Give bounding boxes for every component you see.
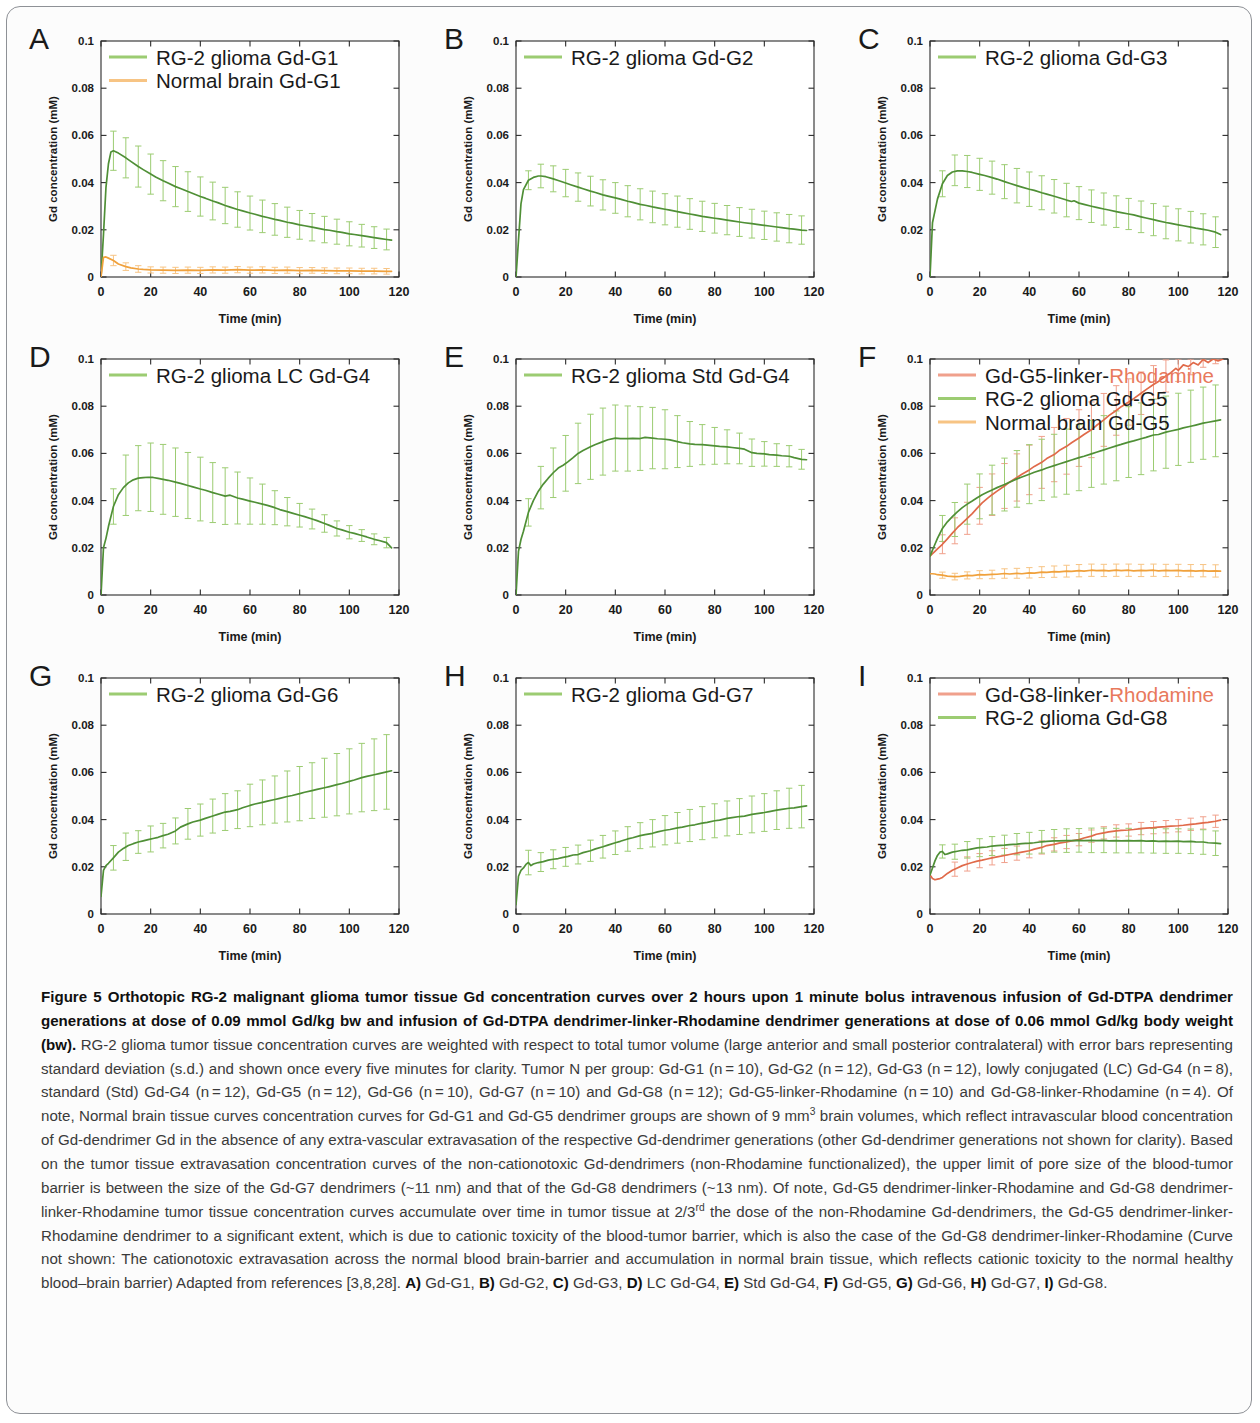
x-tick-label: 20	[144, 603, 158, 617]
panel-C: C02040608010012000.020.040.060.080.1Time…	[844, 15, 1259, 333]
x-tick-label: 120	[389, 285, 410, 299]
x-tick-label: 120	[803, 285, 824, 299]
legend-label: RG-2 glioma LC Gd-G4	[156, 364, 370, 387]
y-tick-label: 0.04	[486, 177, 509, 189]
x-tick-label: 100	[754, 603, 775, 617]
panel-letter-E: E	[444, 340, 464, 373]
x-tick-label: 120	[1218, 285, 1239, 299]
chart-panel-H: H02040608010012000.020.040.060.080.1Time…	[430, 652, 844, 970]
y-tick-label: 0.02	[901, 542, 923, 554]
y-tick-label: 0.04	[72, 495, 95, 507]
x-tick-label: 100	[754, 922, 775, 936]
x-tick-label: 40	[1023, 285, 1037, 299]
figure-caption-superscript-2: rd	[695, 1202, 704, 1213]
x-tick-label: 20	[558, 603, 572, 617]
x-tick-label: 0	[98, 285, 105, 299]
y-tick-label: 0.1	[907, 353, 924, 365]
x-axis-label: Time (min)	[633, 630, 696, 644]
x-tick-label: 120	[1218, 603, 1239, 617]
chart-panel-C: C02040608010012000.020.040.060.080.1Time…	[844, 15, 1258, 333]
x-tick-label: 40	[1023, 603, 1037, 617]
y-tick-label: 0.08	[486, 82, 509, 94]
y-axis-label: Gd concentration (mM)	[47, 414, 59, 540]
x-tick-label: 40	[1023, 922, 1037, 936]
plot-area	[516, 678, 814, 914]
y-axis-label: Gd concentration (mM)	[876, 414, 888, 540]
panel-key-text: Gd-G7,	[987, 1274, 1045, 1291]
y-tick-label: 0.1	[78, 672, 95, 684]
y-tick-label: 0.02	[72, 542, 94, 554]
x-tick-label: 20	[144, 285, 158, 299]
y-tick-label: 0.08	[486, 719, 509, 731]
y-tick-label: 0.04	[486, 813, 509, 825]
y-tick-label: 0.04	[901, 813, 924, 825]
panel-key-text: Gd-G8.	[1054, 1274, 1108, 1291]
legend-label: Normal brain Gd-G1	[156, 69, 341, 92]
panel-letter-D: D	[29, 340, 51, 373]
x-tick-label: 120	[803, 922, 824, 936]
x-tick-label: 120	[389, 922, 410, 936]
y-tick-label: 0.02	[486, 224, 508, 236]
panel-G: G02040608010012000.020.040.060.080.1Time…	[15, 652, 430, 970]
y-axis-label: Gd concentration (mM)	[47, 733, 59, 859]
x-tick-label: 60	[1072, 922, 1086, 936]
x-tick-label: 120	[803, 603, 824, 617]
chart-panel-D: D02040608010012000.020.040.060.080.1Time…	[15, 333, 429, 651]
panel-key-letter: G)	[896, 1274, 913, 1291]
x-tick-label: 60	[243, 922, 257, 936]
y-axis-label: Gd concentration (mM)	[47, 96, 59, 222]
chart-panel-F: F02040608010012000.020.040.060.080.1Time…	[844, 333, 1258, 651]
legend-label: Gd-G5-linker-Rhodamine	[985, 364, 1214, 387]
chart-panel-G: G02040608010012000.020.040.060.080.1Time…	[15, 652, 429, 970]
x-tick-label: 40	[608, 603, 622, 617]
x-tick-label: 80	[1122, 922, 1136, 936]
x-axis-label: Time (min)	[219, 312, 282, 326]
y-tick-label: 0.02	[72, 224, 94, 236]
x-axis-label: Time (min)	[219, 630, 282, 644]
y-tick-label: 0.1	[493, 35, 510, 47]
legend-label: Gd-G8-linker-Rhodamine	[985, 682, 1214, 705]
y-tick-label: 0.06	[486, 129, 508, 141]
y-tick-label: 0	[88, 271, 94, 283]
legend-label: RG-2 glioma Gd-G8	[985, 706, 1167, 729]
y-tick-label: 0.02	[72, 860, 94, 872]
panel-letter-H: H	[444, 659, 466, 692]
panel-letter-I: I	[858, 659, 866, 692]
x-tick-label: 60	[658, 603, 672, 617]
x-tick-label: 100	[1168, 922, 1189, 936]
y-tick-label: 0.1	[907, 672, 924, 684]
y-tick-label: 0.08	[901, 401, 924, 413]
x-tick-label: 60	[243, 603, 257, 617]
x-tick-label: 20	[558, 922, 572, 936]
x-tick-label: 20	[144, 922, 158, 936]
panel-key-text: Gd-G5,	[838, 1274, 896, 1291]
x-tick-label: 40	[608, 285, 622, 299]
x-tick-label: 100	[339, 285, 360, 299]
x-tick-label: 40	[608, 922, 622, 936]
panel-key-letter: B)	[479, 1274, 495, 1291]
legend-label: RG-2 glioma Gd-G5	[985, 387, 1167, 410]
y-tick-label: 0.06	[486, 448, 508, 460]
y-tick-label: 0.06	[72, 129, 94, 141]
panel-letter-G: G	[29, 659, 52, 692]
panel-E: E02040608010012000.020.040.060.080.1Time…	[430, 333, 845, 651]
panel-D: D02040608010012000.020.040.060.080.1Time…	[15, 333, 430, 651]
panel-letter-C: C	[858, 22, 880, 55]
x-tick-label: 0	[512, 285, 519, 299]
plot-area	[516, 359, 814, 595]
y-tick-label: 0.06	[901, 129, 923, 141]
x-tick-label: 80	[707, 603, 721, 617]
x-tick-label: 20	[973, 603, 987, 617]
y-tick-label: 0.08	[901, 719, 924, 731]
x-tick-label: 100	[754, 285, 775, 299]
y-tick-label: 0.08	[72, 82, 95, 94]
x-tick-label: 0	[512, 603, 519, 617]
x-tick-label: 0	[98, 603, 105, 617]
x-axis-label: Time (min)	[1048, 630, 1111, 644]
chart-panel-I: I02040608010012000.020.040.060.080.1Time…	[844, 652, 1258, 970]
x-tick-label: 80	[293, 285, 307, 299]
y-tick-label: 0.08	[901, 82, 924, 94]
y-tick-label: 0.06	[901, 766, 923, 778]
y-tick-label: 0	[502, 908, 508, 920]
y-tick-label: 0.1	[78, 35, 95, 47]
